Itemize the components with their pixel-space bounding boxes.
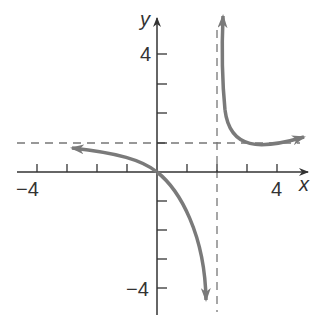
y-axis-label: y <box>138 8 151 30</box>
left-branch-curve-lower <box>157 172 206 300</box>
x-tick-label-neg4: −4 <box>16 178 39 200</box>
right-branch-curve <box>225 110 304 145</box>
rational-function-graph: y x −4 4 4 −4 <box>0 0 321 327</box>
right-branch-curve-upper <box>222 16 225 110</box>
y-tick-label-neg4: −4 <box>126 278 149 300</box>
x-tick-label-pos4: 4 <box>271 178 282 200</box>
left-branch-curve <box>72 148 157 172</box>
x-axis-label: x <box>298 173 310 195</box>
y-tick-label-pos4: 4 <box>140 43 151 65</box>
